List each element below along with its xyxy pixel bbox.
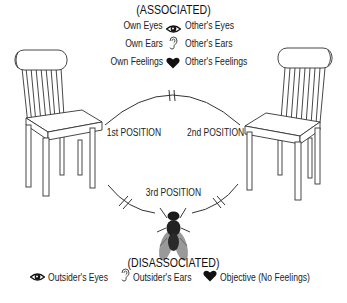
fly-icon [156,208,190,262]
legend-label: Outsider's Ears [133,272,192,283]
chair-icon [245,48,332,200]
first-position-label: 1st POSITION [107,127,161,138]
legend-item-objective: Objective (No Feelings) [203,268,316,286]
own-feelings-label: Own Feelings [110,56,163,67]
legend-item-outsiders-eyes: Outsider's Eyes [30,268,110,286]
own-ears-label: Own Ears [125,38,163,49]
own-eyes-label: Own Eyes [124,20,163,31]
chair-icon [15,50,102,196]
ear-icon [168,36,178,54]
third-position-label: 3rd POSITION [26,187,321,198]
others-feelings-label: Other's Feelings [185,56,247,67]
heart-icon [203,268,217,286]
connection-arc-top [105,90,240,125]
disassociated-legend: Outsider's Eyes Outsider's Ears Objectiv… [0,270,347,284]
second-position-label: 2nd POSITION [187,127,244,138]
associated-heading: (ASSOCIATED) [21,3,326,17]
ear-icon [120,268,130,286]
others-eyes-label: Other's Eyes [185,20,234,31]
heart-icon [166,55,180,73]
legend-item-outsiders-ears: Outsider's Ears [120,268,193,286]
legend-label: Objective (No Feelings) [220,272,310,283]
legend-label: Outsider's Eyes [48,272,108,283]
eye-icon [30,268,45,286]
others-ears-label: Other's Ears [185,38,233,49]
